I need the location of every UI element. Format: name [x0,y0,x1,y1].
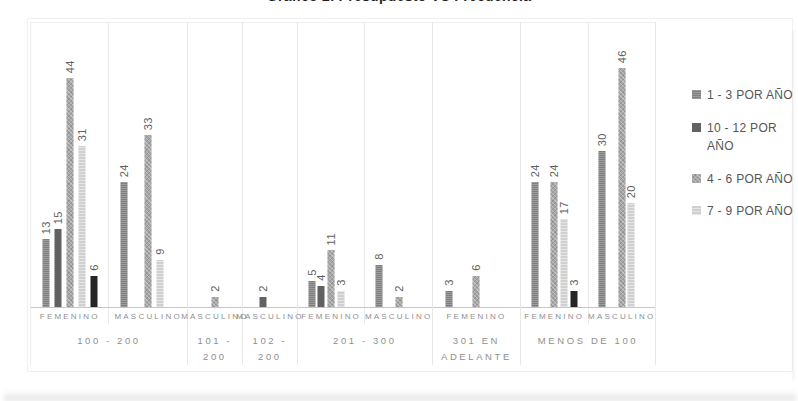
bar-slot [273,23,280,307]
bar [376,265,383,307]
group-plot-band: 2 [188,22,242,308]
gender-axis-band: MASCULINO [188,308,242,324]
scan-shadow-artifact [4,390,796,401]
bar-slot [197,23,204,307]
bar-slot [483,23,497,307]
gender-label: MASCULINO [114,312,181,321]
bar-slot: 33 [142,23,154,307]
bar-slot [266,23,273,307]
gender-label: FEMENINO [447,312,507,321]
group-plot-band: 2 [243,22,297,308]
gender-label: FEMENINO [524,312,584,321]
bar [121,182,128,307]
bar-slot: 44 [64,23,76,307]
bar [90,276,97,307]
bar [445,291,452,307]
group-plot-band: 2424173304620 [521,22,655,308]
category-group: 36FEMENINO301 EN ADELANTE [433,22,521,365]
budget-range-label: MENOS DE 100 [521,324,655,360]
bar-slot [413,23,423,307]
bar-slot: 31 [76,23,88,307]
subgroup-bars: 2 [243,23,297,307]
gender-label-cell: FEMENINO [433,308,520,324]
subgroup-bars: 82 [365,23,432,307]
bar [211,297,218,307]
bar [599,151,606,307]
bar-slot: 8 [374,23,384,307]
bar-slot: 24 [118,23,130,307]
bar-value-label: 31 [76,128,88,141]
bar-slot [204,23,211,307]
bar-chart-plot-area: 13154431624339FEMENINOMASCULINO100 - 200… [30,22,656,365]
subgroup-bars: 54113 [298,23,366,307]
legend-item: 10 - 12 POR AÑO [692,119,794,156]
category-group: 2MASCULINO101 - 200 [188,22,243,365]
bar-slot: 3 [336,23,346,307]
bar-slot [346,23,356,307]
bar-slot [226,23,233,307]
bar-slot: 46 [617,23,627,307]
category-group: 2424173304620FEMENINOMASCULINOMENOS DE 1… [521,22,656,365]
group-plot-band: 5411382 [298,22,432,308]
legend-swatch-icon [692,90,701,99]
chart-legend: 1 - 3 POR AÑO10 - 12 POR AÑO4 - 6 POR AÑ… [692,86,794,235]
gender-label: MASCULINO [365,312,432,321]
gender-label-cell: MASCULINO [109,308,186,324]
legend-item: 1 - 3 POR AÑO [692,86,794,105]
category-group: 13154431624339FEMENINOMASCULINO100 - 200 [31,22,188,365]
legend-label: 10 - 12 POR AÑO [707,119,794,156]
legend-swatch-icon [692,206,701,215]
gender-axis-band: FEMENINOMASCULINO [31,308,187,324]
bar [328,250,335,307]
gender-label-cell: FEMENINO [31,308,109,324]
gender-label: FEMENINO [40,312,100,321]
bar-slot: 5 [307,23,317,307]
bar-slot [384,23,394,307]
bar-slot: 24 [549,23,559,307]
subgroup-bars: 304620 [589,23,656,307]
bar-slot [403,23,413,307]
bar-slot: 3 [569,23,579,307]
budget-range-label: 301 EN ADELANTE [433,324,520,365]
bar-slot: 30 [598,23,608,307]
legend-label: 1 - 3 POR AÑO [707,86,793,105]
bar-slot: 24 [530,23,540,307]
bar-slot [497,23,511,307]
bar-value-label: 6 [470,264,482,271]
gender-axis-band: FEMENINOMASCULINO [298,308,432,324]
gender-label-cell: FEMENINO [298,308,366,324]
bar-value-label: 24 [118,164,130,177]
bar-slot: 15 [52,23,64,307]
bar [473,276,480,307]
subgroup-bars: 24339 [109,23,186,307]
bar-slot: 6 [470,23,484,307]
bar [570,291,577,307]
gender-label-cell: MASCULINO [589,308,656,324]
bar-slot: 4 [317,23,327,307]
bar-value-label: 44 [64,60,76,73]
bar [560,219,567,307]
bar-slot: 2 [259,23,266,307]
category-group: 5411382FEMENINOMASCULINO201 - 300 [298,22,433,365]
bar-slot [607,23,617,307]
scanned-bar-chart-figure: Gráfico 2. Presupuesto VS Frecuencia 131… [0,0,798,401]
bar [259,297,266,307]
gender-label-cell: MASCULINO [188,308,242,324]
bar-slot [252,23,259,307]
gender-label-cell: FEMENINO [521,308,589,324]
bar-slot: 20 [627,23,637,307]
bar-value-label: 13 [40,221,52,234]
bar-value-label: 15 [52,211,64,224]
gender-axis-band: FEMENINOMASCULINO [521,308,655,324]
bar [395,297,402,307]
bar [318,286,325,307]
subgroup-bars: 36 [433,23,520,307]
bar [145,135,152,307]
bar-slot: 6 [88,23,100,307]
bar-slot: 9 [154,23,166,307]
subgroup-bars: 2 [188,23,242,307]
group-plot-band: 36 [433,22,520,308]
gender-label-cell: MASCULINO [243,308,297,324]
bar-slot [166,23,178,307]
legend-item: 7 - 9 POR AÑO [692,202,794,221]
